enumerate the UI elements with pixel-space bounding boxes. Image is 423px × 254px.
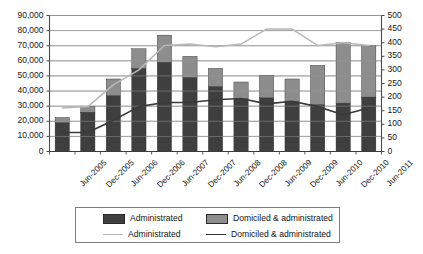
chart-container: 010,00020,00030,00040,00050,00060,00070,… [0, 0, 423, 254]
y-axis-right-tick-label: 200 [388, 92, 402, 101]
legend-item-domiciled-administrated-bar: Domiciled & administrated [206, 211, 333, 226]
y-axis-right-tick-label: 100 [388, 119, 402, 128]
y-axis-left-tick-label: 80,000 [0, 26, 44, 35]
y-axis-right-tick-label: 350 [388, 51, 402, 60]
y-axis-right-tick-label: 500 [388, 11, 402, 20]
legend-label: Domiciled & administrated [233, 214, 333, 223]
legend-swatch-domiciled-administrated-bar [206, 214, 228, 224]
legend-item-domiciled-administrated-line: Domiciled & administrated [206, 227, 331, 242]
y-axis-left-tick-label: 20,000 [0, 116, 44, 125]
y-axis-right-tick-label: 50 [388, 133, 397, 142]
y-axis-left-tick-label: 30,000 [0, 101, 44, 110]
y-axis-right-tick-label: 450 [388, 24, 402, 33]
y-axis-right-tick-label: 300 [388, 65, 402, 74]
y-axis-left-tick-label: 70,000 [0, 41, 44, 50]
legend-item-administrated-line: Administrated [103, 227, 181, 242]
y-axis-right-tick-label: 0 [388, 147, 393, 156]
legend-line-domiciled-administrated [206, 231, 226, 239]
y-axis-right-tick-label: 250 [388, 79, 402, 88]
y-axis-left-tick-label: 60,000 [0, 56, 44, 65]
y-axis-left-tick-label: 50,000 [0, 71, 44, 80]
y-axis-left-tick-label: 40,000 [0, 86, 44, 95]
legend-line-administrated [103, 231, 123, 239]
chart-legend: Administrated Domiciled & administrated … [75, 207, 340, 243]
legend-label: Administrated [130, 214, 183, 223]
legend-label: Domiciled & administrated [231, 230, 331, 239]
legend-swatch-administrated-bar [103, 214, 125, 224]
y-axis-right-tick-label: 150 [388, 106, 402, 115]
legend-label: Administrated [128, 230, 181, 239]
legend-item-administrated-bar: Administrated [103, 211, 183, 226]
y-axis-left-tick-label: 10,000 [0, 131, 44, 140]
y-axis-left-tick-label: 0 [0, 147, 44, 156]
y-axis-left-tick-label: 90,000 [0, 11, 44, 20]
y-axis-right-tick-label: 400 [388, 38, 402, 47]
